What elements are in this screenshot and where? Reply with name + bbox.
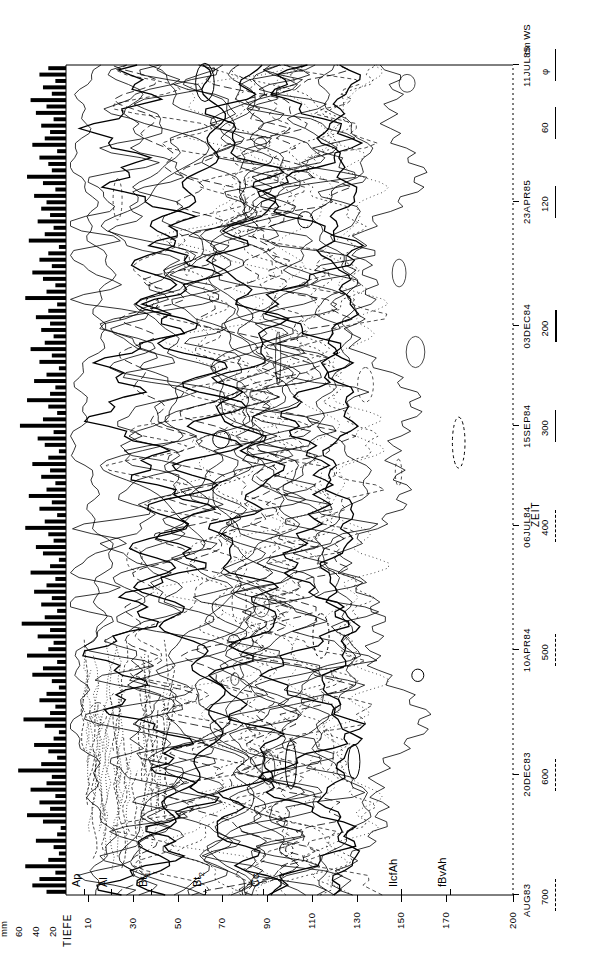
precipitation-bar	[47, 105, 66, 109]
precipitation-bar	[50, 807, 66, 811]
legend-swatch-4	[555, 410, 557, 442]
depth-tick-200: 200	[507, 912, 518, 929]
precipitation-bar	[27, 175, 66, 179]
contour-closed-loop	[276, 332, 281, 385]
precipitation-bar	[31, 347, 66, 351]
precipitation-bar	[43, 820, 66, 824]
contour-closed-loop	[358, 368, 374, 403]
precipitation-bar	[47, 692, 66, 696]
legend-swatch-1	[555, 759, 557, 791]
precipitation-bar	[52, 775, 66, 779]
precipitation-bar	[39, 800, 66, 804]
precipitation-bar	[27, 654, 66, 658]
precipitation-bar	[45, 341, 66, 345]
precipitation-bar	[45, 520, 66, 524]
contour-closed-loop	[232, 583, 246, 623]
precipitation-bar	[57, 411, 66, 415]
precip-tick-40: 40	[30, 926, 41, 937]
precipitation-bar	[52, 92, 66, 96]
precipitation-bar	[27, 813, 66, 817]
contour-fine-line	[93, 751, 106, 850]
precipitation-bar	[39, 698, 66, 702]
depth-tick-mark	[401, 895, 402, 902]
precipitation-bar	[36, 315, 66, 319]
legend-label-4: 300	[539, 420, 550, 436]
precipitation-bar	[32, 883, 66, 887]
depth-tick-mark	[513, 895, 514, 902]
precipitation-bar	[48, 532, 66, 536]
precipitation-bar	[47, 373, 66, 377]
precipitation-bar	[43, 85, 66, 89]
contour-line-300	[335, 65, 431, 895]
precipitation-bar	[48, 251, 66, 255]
precipitation-bar	[59, 730, 66, 734]
contour-line-60	[71, 65, 117, 895]
legend-swatch-2	[555, 634, 557, 666]
precipitation-bar	[32, 143, 66, 147]
precipitation-bar	[38, 219, 66, 223]
depth-tick-170: 170	[440, 912, 451, 929]
horizon-tick	[205, 889, 206, 895]
precipitation-panel	[0, 65, 66, 895]
contour-fine-line	[123, 737, 129, 831]
precipitation-bar	[47, 200, 66, 204]
legend-label-5: 200	[539, 321, 550, 337]
precipitation-bar	[59, 245, 66, 249]
contour-fine-line	[118, 698, 123, 796]
legend-label-6: 120	[539, 196, 550, 212]
precipitation-bar	[45, 136, 66, 140]
precipitation-bar	[55, 577, 66, 581]
precipitation-bar	[50, 468, 66, 472]
precipitation-bar	[52, 500, 66, 504]
horizon-tick	[111, 889, 112, 895]
precipitation-bar	[54, 117, 66, 121]
precip-tick-20: 20	[47, 926, 58, 937]
precipitation-bar	[59, 558, 66, 562]
precip-tick-60: 60	[13, 926, 24, 937]
depth-tick-150: 150	[395, 912, 406, 929]
time-tick-4: 15SEP84	[521, 404, 532, 448]
precipitation-bar	[55, 79, 66, 83]
precipitation-bar	[43, 666, 66, 670]
horizon-label-fbvah: fBvAh	[436, 858, 448, 887]
precipitation-bar	[47, 488, 66, 492]
precipitation-bar	[57, 832, 66, 836]
time-tick-mark	[513, 894, 519, 895]
contour-closed-loop	[280, 844, 294, 856]
legend-label-3: 400	[539, 520, 550, 536]
legend-label-0: 700	[539, 889, 550, 905]
precipitation-bar	[50, 628, 66, 632]
precipitation-bar	[39, 258, 66, 262]
precipitation-bar	[41, 207, 66, 211]
precipitation-bar	[48, 858, 66, 862]
precipitation-bar	[50, 564, 66, 568]
precipitation-bar	[55, 705, 66, 709]
precipitation-bar	[36, 545, 66, 549]
contour-line-120	[201, 65, 265, 895]
precipitation-bar	[34, 379, 66, 383]
precipitation-bar	[39, 877, 66, 881]
legend-swatch-0	[555, 879, 557, 911]
precipitation-bar	[55, 481, 66, 485]
precipitation-bar	[45, 232, 66, 236]
time-tick-mark	[513, 201, 519, 202]
legend-swatch-6	[555, 186, 557, 218]
contour-fine-line	[163, 665, 175, 780]
precipitation-bar	[52, 596, 66, 600]
precipitation-bar	[54, 845, 66, 849]
contour-fine-line	[113, 641, 121, 756]
contour-closed-loop	[399, 74, 415, 92]
precipitation-bar	[39, 73, 66, 77]
precipitation-bar	[54, 430, 66, 434]
contour-line-600	[293, 65, 378, 895]
precipitation-bar	[31, 788, 66, 792]
precipitation-bar	[59, 366, 66, 370]
contour-closed-loop	[113, 179, 122, 220]
precipitation-bar	[36, 839, 66, 843]
precipitation-bar	[31, 98, 66, 102]
depth-tick-90: 90	[261, 917, 272, 929]
precipitation-bar	[45, 615, 66, 619]
time-tick-1: 20DEC83	[521, 752, 532, 797]
precipitation-bar	[50, 130, 66, 134]
depth-tick-mark	[178, 895, 179, 902]
